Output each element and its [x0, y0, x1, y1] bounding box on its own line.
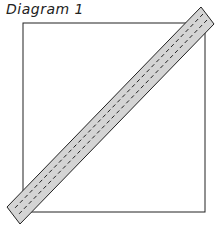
- diagram-canvas: [0, 0, 224, 231]
